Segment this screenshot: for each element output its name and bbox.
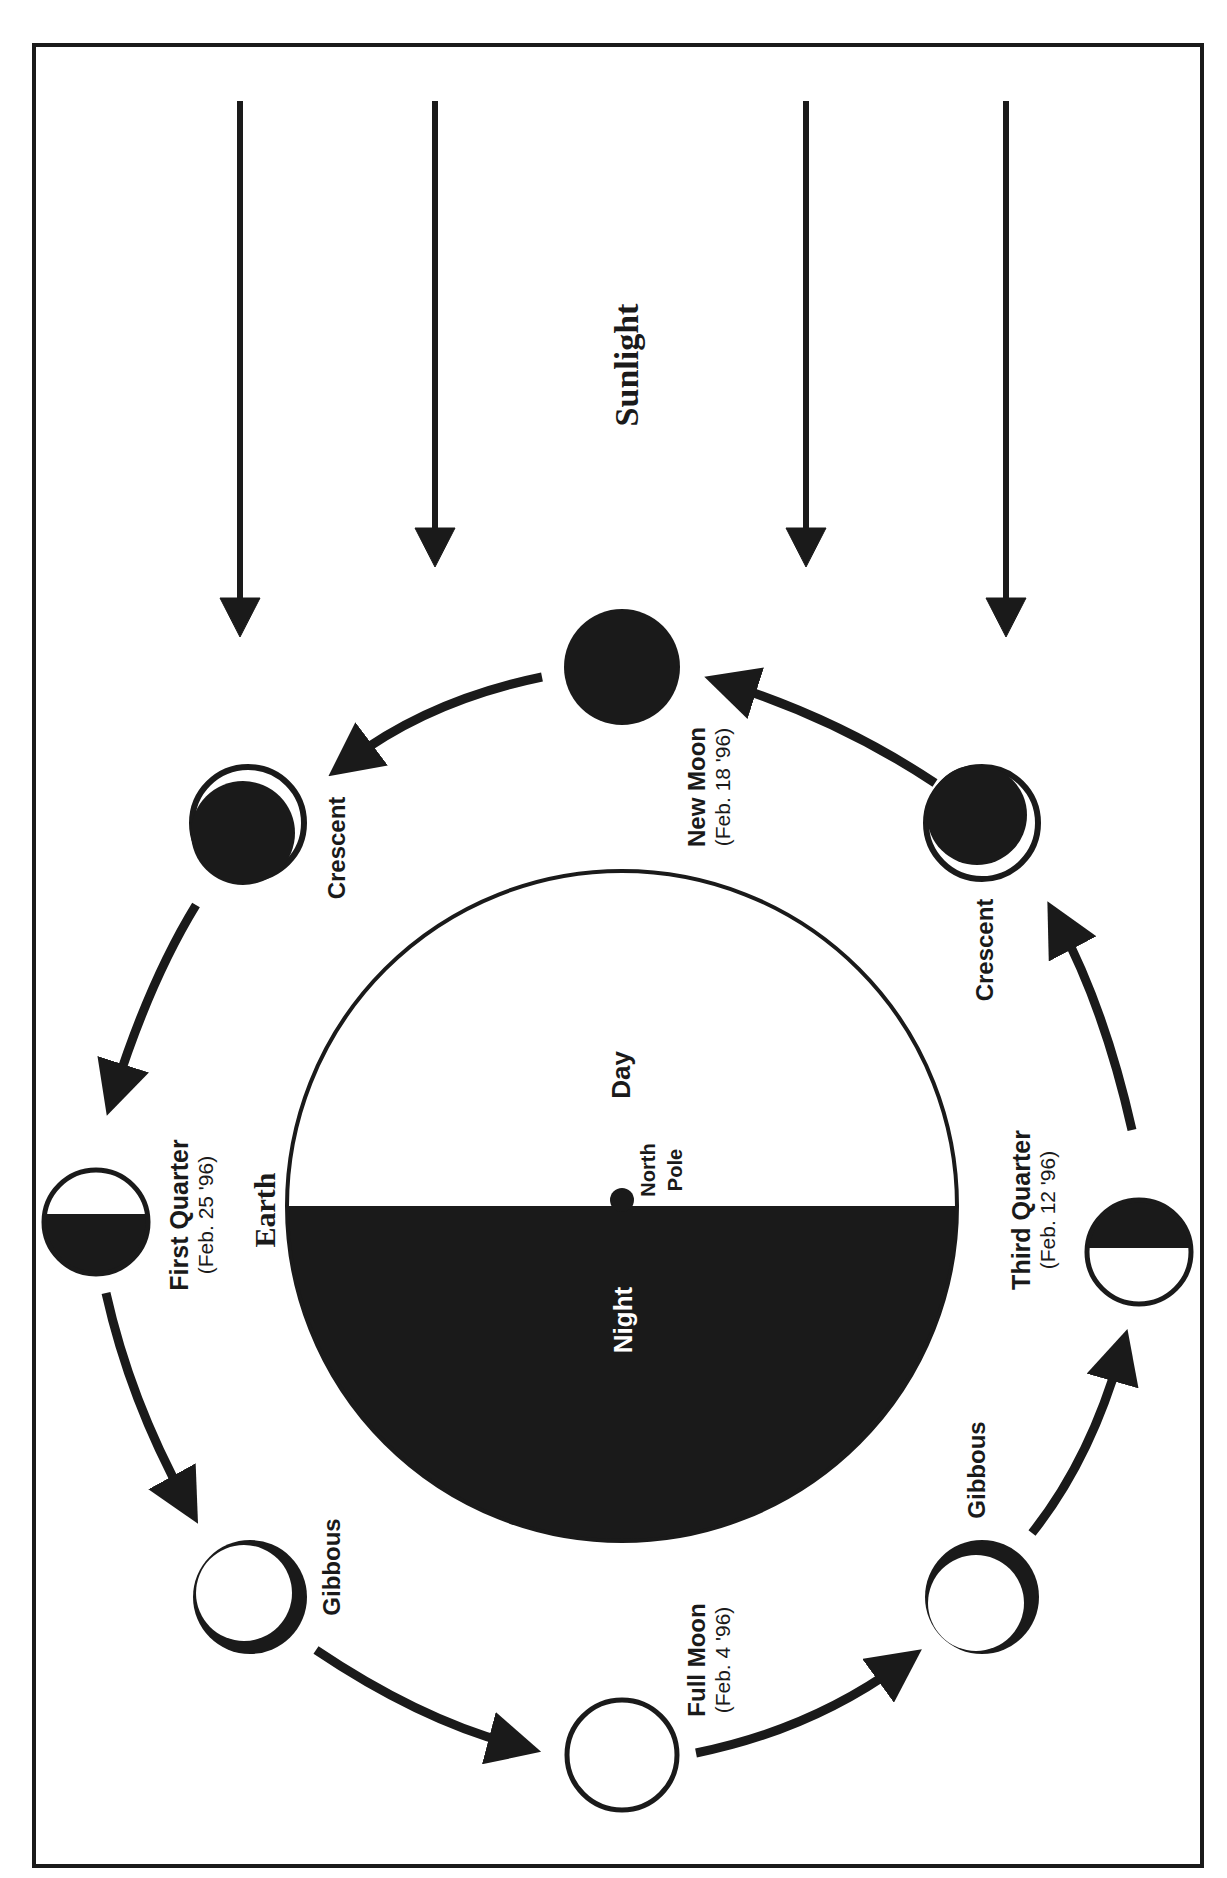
waxing-gibbous-moon-icon <box>193 1540 307 1654</box>
arrow-head-icon <box>415 528 455 567</box>
waxing-crescent-label: Crescent <box>323 797 350 900</box>
north-pole-label-line2: Pole <box>664 1149 686 1191</box>
sunlight-label: Sunlight <box>608 303 645 427</box>
waning-crescent-moon-icon <box>926 765 1038 879</box>
third-quarter-moon-icon <box>1083 1190 1195 1304</box>
arrow-head-icon <box>986 598 1026 637</box>
waning-crescent-label: Crescent <box>971 899 998 1002</box>
earth-label: Earth <box>248 1172 281 1247</box>
north-pole-dot-icon <box>610 1188 634 1212</box>
north-pole-label-line1: North <box>637 1143 659 1196</box>
first-quarter-date: (Feb. 25 '96) <box>194 1156 217 1274</box>
moon-phase-diagram: Sunlight Earth Day Night North Pole New … <box>0 0 1227 1878</box>
full-moon-label: Full Moon <box>683 1603 710 1716</box>
new-moon-icon <box>564 609 680 725</box>
waning-gibbous-moon-icon <box>925 1540 1039 1654</box>
new-moon-label: New Moon <box>683 727 710 847</box>
full-moon-date: (Feb. 4 '96) <box>711 1607 734 1714</box>
first-quarter-moon-icon <box>40 1170 152 1284</box>
third-quarter-label: Third Quarter <box>1007 1130 1035 1290</box>
day-label: Day <box>606 1051 636 1099</box>
waxing-crescent-moon-icon <box>191 767 304 885</box>
full-moon-icon <box>567 1700 677 1810</box>
earth-night-side <box>280 1206 980 1556</box>
waxing-gibbous-label: Gibbous <box>318 1518 345 1615</box>
new-moon-date: (Feb. 18 '96) <box>711 728 734 846</box>
waning-gibbous-label: Gibbous <box>963 1421 990 1518</box>
earth <box>280 871 980 1556</box>
third-quarter-date: (Feb. 12 '96) <box>1036 1151 1059 1269</box>
first-quarter-label: First Quarter <box>165 1139 193 1291</box>
arrow-head-icon <box>786 528 826 567</box>
night-label: Night <box>608 1286 638 1353</box>
arrow-head-icon <box>220 598 260 637</box>
